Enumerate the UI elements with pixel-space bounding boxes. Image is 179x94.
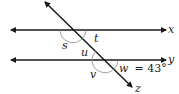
- angle-arc-w: [114, 60, 118, 69]
- label-transversal-z: z: [134, 82, 141, 94]
- label-angle-w-name: w: [119, 62, 129, 75]
- geometry-diagram: x y z s t u v w = 43°: [0, 0, 179, 94]
- label-line-x: x: [168, 23, 175, 36]
- angle-arc-u: [92, 51, 96, 60]
- label-angle-t: t: [94, 32, 99, 45]
- label-angle-v: v: [90, 68, 97, 81]
- label-line-y: y: [167, 53, 175, 66]
- label-angle-w-value: = 43°: [134, 62, 166, 75]
- label-angle-s: s: [62, 39, 68, 52]
- label-angle-u: u: [81, 46, 88, 59]
- angle-arc-t: [82, 30, 86, 39]
